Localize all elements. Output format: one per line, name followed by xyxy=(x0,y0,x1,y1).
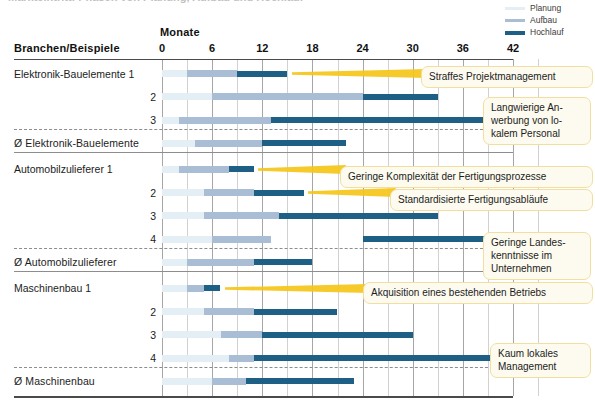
bar-aufbau xyxy=(179,117,271,124)
gridline-month-21 xyxy=(338,59,339,396)
row-label-3: 3 xyxy=(14,112,156,128)
axis-tick-42: 42 xyxy=(507,42,519,54)
bar-aufbau xyxy=(187,70,237,77)
row-label-3: 3 xyxy=(14,208,156,224)
callout-pointer xyxy=(292,65,427,82)
callout-text-line: Kaum lokales xyxy=(498,347,583,360)
gridline-month-9 xyxy=(237,59,238,396)
callout-pointer xyxy=(308,184,396,201)
bar-aufbau xyxy=(204,212,279,219)
gridline-month-3 xyxy=(187,59,188,396)
callout-5: Geringe Landes-kenntnisse imUnternehmen xyxy=(483,232,591,280)
row-label-automobilzulieferer-1: Automobilzulieferer 1 xyxy=(14,161,156,177)
bar-hochlauf xyxy=(254,355,496,361)
bar-hochlauf xyxy=(363,94,438,100)
group-separator-dashed xyxy=(14,367,513,368)
legend-label-planung: Planung xyxy=(530,3,561,14)
gridline-month-30 xyxy=(413,59,414,396)
bar-planung xyxy=(162,259,187,266)
bar-planung xyxy=(162,140,195,147)
bar-planung xyxy=(162,378,212,385)
callout-1: Straffes Projektmanagement xyxy=(421,66,593,88)
axis-title-monate: Monate xyxy=(160,26,200,38)
row-label-2: 2 xyxy=(14,89,156,105)
gridline-month-36 xyxy=(463,59,464,396)
callout-text-line: Geringe Landes- xyxy=(491,236,583,249)
legend: Planung Aufbau Hochlauf xyxy=(505,3,593,39)
bar-aufbau xyxy=(212,378,245,385)
axis-top xyxy=(14,59,513,60)
row-label-2: 2 xyxy=(14,304,156,320)
callout-2: Langwierige An-werbung von lo-kalem Pers… xyxy=(483,97,591,145)
callout-4: Standardisierte Fertigungsabläufe xyxy=(390,189,593,211)
axis-tick-12: 12 xyxy=(256,42,268,54)
gridline-month-27 xyxy=(388,59,389,396)
callout-pointer xyxy=(258,161,346,178)
axis-tick-0: 0 xyxy=(159,42,165,54)
gantt-chart: Markteintritt: Phasen von Planung, Aufba… xyxy=(0,0,595,403)
bar-aufbau xyxy=(212,93,362,100)
bar-planung xyxy=(162,189,204,196)
bar-planung xyxy=(162,331,221,338)
legend-swatch-hochlauf xyxy=(505,31,525,35)
callout-text-line: werbung von lo- xyxy=(491,114,583,127)
group-separator-dashed xyxy=(14,129,513,130)
callout-text-line: Standardisierte Fertigungsabläufe xyxy=(398,193,585,206)
bar-aufbau xyxy=(187,259,254,266)
bar-planung xyxy=(162,285,187,292)
bar-hochlauf xyxy=(271,117,513,123)
bar-planung xyxy=(162,212,204,219)
group-separator-solid xyxy=(14,152,513,153)
bar-aufbau xyxy=(212,236,271,243)
gridline-month-0 xyxy=(162,59,163,396)
row-label-elektronik-bauelemente: Ø Elektronik-Bauelemente xyxy=(14,135,156,151)
callout-6: Akquisition eines bestehenden Betriebs xyxy=(363,282,593,304)
callout-7: Kaum lokalesManagement xyxy=(490,343,591,378)
axis-bottom xyxy=(14,396,513,398)
gridline-month-6 xyxy=(212,59,213,396)
bar-hochlauf xyxy=(262,140,346,146)
callout-text-line: kalem Personal xyxy=(491,127,583,140)
callout-text-line: Langwierige An- xyxy=(491,101,583,114)
row-label-elektronik-bauelemente-1: Elektronik-Bauelemente 1 xyxy=(14,66,156,82)
bar-hochlauf xyxy=(229,166,254,172)
callout-text-line: Straffes Projektmanagement xyxy=(429,70,585,83)
legend-swatch-planung xyxy=(505,7,525,10)
bar-hochlauf xyxy=(246,378,355,384)
bar-aufbau xyxy=(187,285,204,292)
row-label-4: 4 xyxy=(14,350,156,366)
bar-hochlauf xyxy=(254,259,313,265)
group-separator-solid xyxy=(14,271,513,272)
gridline-month-18 xyxy=(312,59,313,396)
legend-item-aufbau: Aufbau xyxy=(505,15,593,26)
row-label-3: 3 xyxy=(14,327,156,343)
legend-swatch-aufbau xyxy=(505,19,525,22)
bar-hochlauf xyxy=(254,309,338,315)
legend-item-hochlauf: Hochlauf xyxy=(505,27,593,38)
bar-aufbau xyxy=(204,308,254,315)
axis-tick-6: 6 xyxy=(209,42,215,54)
bar-aufbau xyxy=(229,355,254,362)
bar-aufbau xyxy=(195,140,262,147)
row-label-maschinenbau: Ø Maschinenbau xyxy=(14,373,156,389)
axis-title-branchen: Branchen/Beispiele xyxy=(14,42,120,54)
legend-item-planung: Planung xyxy=(505,3,593,14)
bar-hochlauf xyxy=(254,190,304,196)
axis-tick-36: 36 xyxy=(457,42,469,54)
row-label-4: 4 xyxy=(14,231,156,247)
axis-tick-18: 18 xyxy=(306,42,318,54)
bar-hochlauf xyxy=(279,213,438,219)
row-label-automobilzulieferer: Ø Automobilzulieferer xyxy=(14,254,156,270)
bar-planung xyxy=(162,308,204,315)
bar-planung xyxy=(162,93,212,100)
page-title: Markteintritt: Phasen von Planung, Aufba… xyxy=(8,0,303,3)
axis-tick-30: 30 xyxy=(407,42,419,54)
bar-aufbau xyxy=(179,166,229,173)
gridline-month-15 xyxy=(287,59,288,396)
bar-planung xyxy=(162,166,179,173)
row-label-maschinenbau-1: Maschinenbau 1 xyxy=(14,280,156,296)
group-separator-dashed xyxy=(14,248,513,249)
callout-pointer xyxy=(225,280,369,297)
legend-label-hochlauf: Hochlauf xyxy=(530,27,564,38)
bar-planung xyxy=(162,117,179,124)
